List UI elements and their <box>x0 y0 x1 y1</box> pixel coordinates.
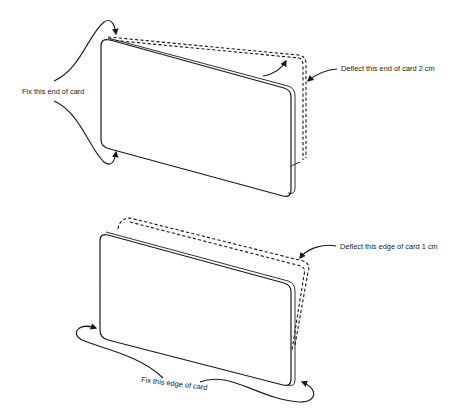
top-card-deflected-outline <box>108 37 306 160</box>
top-deflect-label: Deflect this end of card 2 cm <box>341 64 435 73</box>
bottom-fix-label: Fix this edge of card <box>141 375 208 392</box>
bottom-card-back <box>106 232 295 385</box>
top-panel: Fix this end of card Deflect this end of… <box>22 21 435 197</box>
top-fix-label: Fix this end of card <box>22 87 84 96</box>
bottom-panel: Fix this edge of card Deflect this edge … <box>76 218 437 402</box>
top-deflect-pointer-arrow <box>308 69 337 81</box>
top-deflect-curved-arrow <box>263 61 286 76</box>
top-card-front <box>101 40 291 197</box>
bottom-deflect-label: Deflect this edge of card 1 cm <box>340 242 438 251</box>
bottom-deflect-pointer-arrow <box>300 245 336 258</box>
bottom-card-deflected-outline <box>118 218 309 350</box>
bottom-fix-arrows <box>76 326 313 402</box>
bottom-card-front <box>100 235 291 386</box>
card-deflection-diagram: Fix this end of card Deflect this end of… <box>0 0 458 417</box>
top-card-back <box>108 38 295 193</box>
